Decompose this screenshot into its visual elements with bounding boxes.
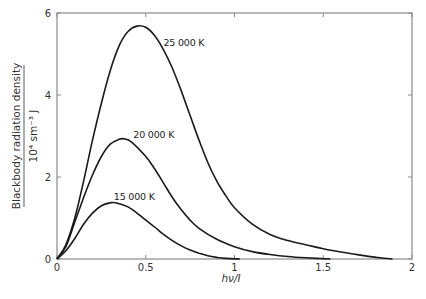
- curve-label: 25 000 K: [164, 37, 206, 48]
- y-tick-label: 2: [45, 172, 51, 183]
- x-axis-label: hν/I: [221, 272, 240, 284]
- plot-frame: [57, 13, 412, 259]
- curve-25000K-K: [57, 26, 393, 259]
- curve-label: 20 000 K: [133, 129, 175, 140]
- x-tick-label: 0.5: [138, 262, 154, 273]
- y-axis-ticks: 0246: [45, 8, 412, 265]
- x-tick-label: 0: [54, 262, 60, 273]
- x-tick-label: 1.5: [315, 262, 331, 273]
- y-tick-label: 0: [45, 254, 51, 265]
- curve-15000K-K: [57, 202, 240, 259]
- x-tick-label: 2: [409, 262, 415, 273]
- y-tick-label: 4: [45, 90, 51, 101]
- blackbody-radiation-chart: 00.511.52 0246 25 000 K20 000 K15 000 K …: [0, 0, 426, 299]
- y-axis-label-units: 10⁴ sm⁻³ J: [27, 110, 39, 163]
- y-axis-label: Blackbody radiation density 10⁴ sm⁻³ J: [10, 63, 39, 209]
- x-axis-ticks: 00.511.52: [54, 13, 415, 273]
- curve-label: 15 000 K: [114, 191, 156, 202]
- y-axis-label-title: Blackbody radiation density: [10, 63, 22, 209]
- y-tick-label: 6: [45, 8, 51, 19]
- curves: [57, 26, 393, 259]
